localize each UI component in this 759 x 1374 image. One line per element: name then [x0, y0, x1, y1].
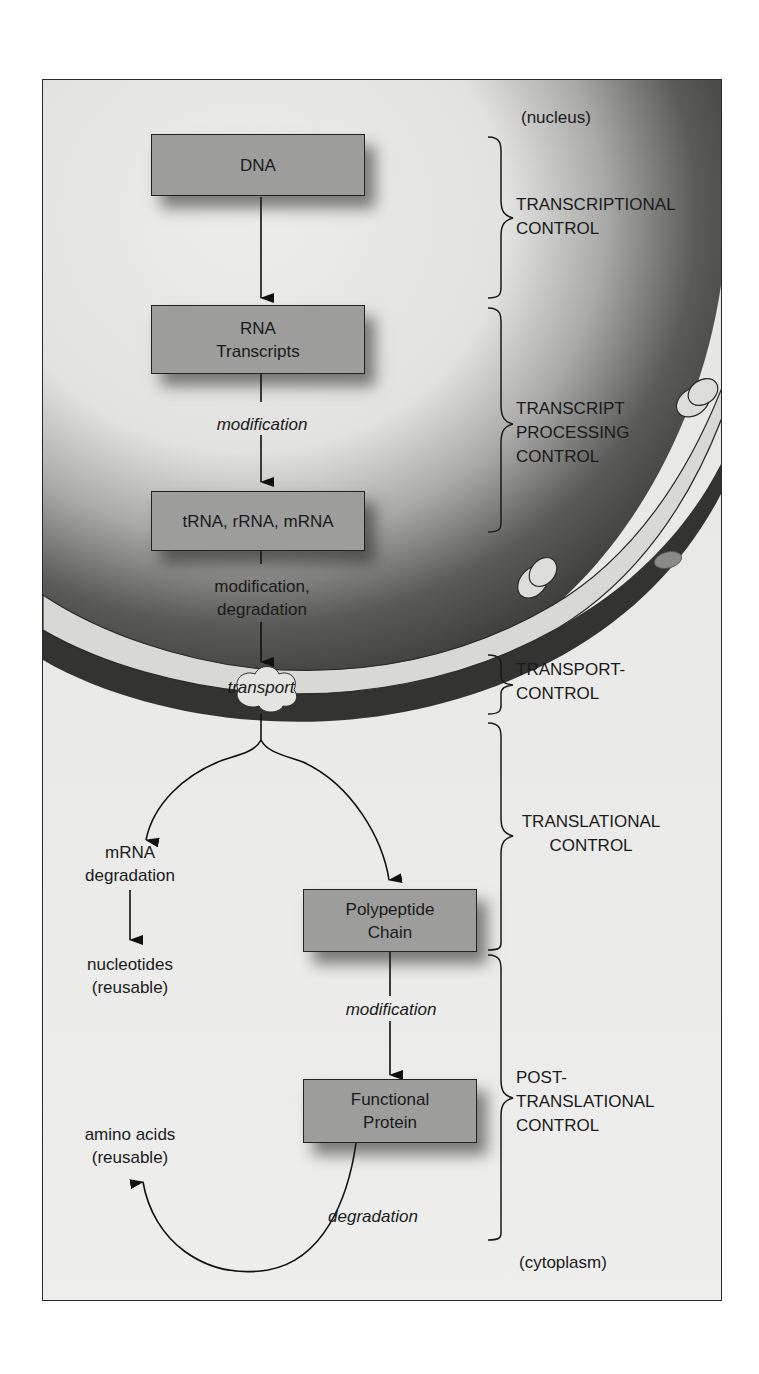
post-translational-control-label: POST- TRANSLATIONAL CONTROL [516, 1066, 655, 1138]
nucleotides-node: nucleotides (reusable) [68, 953, 192, 999]
post-line1: POST- [516, 1066, 655, 1090]
transport-control-label: TRANSPORT- CONTROL [516, 658, 625, 706]
polypeptide-chain-box: Polypeptide Chain [303, 889, 477, 952]
mrna-degradation-line2: degradation [68, 864, 192, 887]
translational-line2: CONTROL [515, 834, 667, 858]
processing-line2: PROCESSING [516, 421, 629, 445]
degradation-label: degradation [308, 1205, 438, 1228]
rna-transcripts-box: RNA Transcripts [151, 305, 365, 374]
amino-acids-node: amino acids (reusable) [68, 1123, 192, 1169]
mrna-degradation-line1: mRNA [68, 841, 192, 864]
rna-box-line2: Transcripts [216, 340, 299, 363]
translational-line1: TRANSLATIONAL [515, 810, 667, 834]
mrna-degradation-node: mRNA degradation [68, 841, 192, 887]
modification-label-1: modification [199, 413, 325, 436]
post-line2: TRANSLATIONAL [516, 1090, 655, 1114]
dna-box-label: DNA [240, 154, 276, 177]
transcriptional-control-label: TRANSCRIPTIONAL CONTROL [516, 193, 676, 241]
amino-acids-line2: (reusable) [68, 1146, 192, 1169]
protein-line1: Functional [351, 1088, 429, 1111]
amino-acids-line1: amino acids [68, 1123, 192, 1146]
rna-box-line1: RNA [240, 317, 276, 340]
transcriptional-line1: TRANSCRIPTIONAL [516, 193, 676, 217]
processing-line3: CONTROL [516, 445, 629, 469]
post-line3: CONTROL [516, 1114, 655, 1138]
transcript-processing-control-label: TRANSCRIPT PROCESSING CONTROL [516, 397, 629, 469]
translational-control-label: TRANSLATIONAL CONTROL [515, 810, 667, 858]
nucleotides-line1: nucleotides [68, 953, 192, 976]
transport-control-line1: TRANSPORT- [516, 658, 625, 682]
transcriptional-line2: CONTROL [516, 217, 676, 241]
polypeptide-line1: Polypeptide [346, 898, 435, 921]
modification-degradation-label-1: modification, [197, 575, 327, 598]
modification-label-2: modification [326, 998, 456, 1021]
polypeptide-line2: Chain [368, 921, 412, 944]
diagram-frame: (nucleus) (cytoplasm) DNA RNA Transcript… [42, 79, 722, 1301]
trna-rrna-mrna-box: tRNA, rRNA, mRNA [151, 491, 365, 551]
nucleotides-line2: (reusable) [68, 976, 192, 999]
dna-box: DNA [151, 134, 365, 196]
cytoplasm-label: (cytoplasm) [519, 1251, 607, 1274]
transport-control-line2: CONTROL [516, 682, 625, 706]
functional-protein-box: Functional Protein [303, 1079, 477, 1143]
nucleus-label: (nucleus) [521, 106, 591, 129]
modification-degradation-label-2: degradation [197, 598, 327, 621]
protein-line2: Protein [363, 1111, 417, 1134]
trna-box-label: tRNA, rRNA, mRNA [182, 510, 333, 533]
processing-line1: TRANSCRIPT [516, 397, 629, 421]
transport-label: transport [211, 676, 311, 699]
